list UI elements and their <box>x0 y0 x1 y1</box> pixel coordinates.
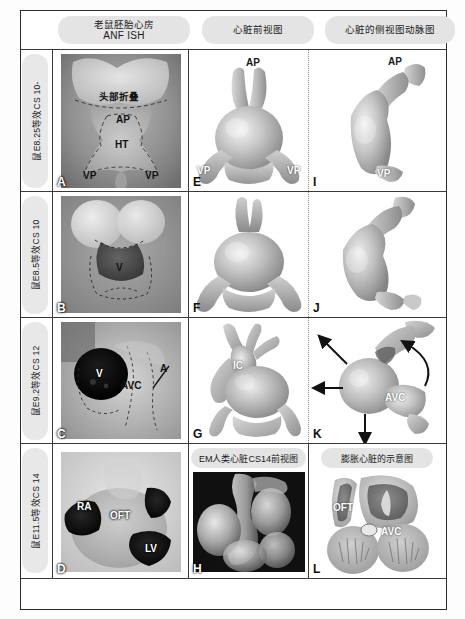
panel-f-model <box>189 192 308 317</box>
panel-h: EM人类心脏CS14前视图 <box>189 444 308 578</box>
panel-a-annotation-vp-right: VP <box>145 170 158 181</box>
column-header-anterior-view-line1: 心脏前视图 <box>233 24 283 36</box>
panel-a-annotation-ht: HT <box>115 139 128 150</box>
column-header-lateral-view-line1: 心脏的侧视图动脉图 <box>345 24 435 36</box>
panel-h-letter: H <box>193 562 202 576</box>
row-label-e85: 鼠E8.5等效CS 10 <box>22 196 48 314</box>
panel-d-annotation-ra: RA <box>77 501 91 512</box>
panel-k: AVC K <box>309 318 446 443</box>
column-header-ish: 老鼠胚胎心房 ANF ISH <box>58 16 190 44</box>
panel-g-letter: G <box>193 427 202 441</box>
panel-j: J <box>309 192 446 317</box>
panel-d-letter: D <box>57 562 66 576</box>
row-label-e825: 鼠E8.25等效CS 10- <box>22 54 48 188</box>
figure-panel: 老鼠胚胎心房 ANF ISH 心脏前视图 心脏的侧视图动脉图 鼠E8.25等效C… <box>0 0 465 619</box>
row-label-e115-text: 鼠E11.5等效CS 14 <box>29 473 41 548</box>
panel-g: IC G <box>189 318 308 443</box>
panel-l: 膨胀心脏的示意图 <box>309 444 446 578</box>
panel-k-annotation-avc: AVC <box>385 392 405 403</box>
panel-a-letter: A <box>57 175 66 189</box>
row-divider-4 <box>21 578 446 579</box>
panel-c-annotation-avc: AVC <box>121 380 141 391</box>
panel-a-annotation-ap: AP <box>116 114 130 125</box>
panel-d-annotation-oft: OFT <box>110 510 130 521</box>
panel-b-image <box>61 196 181 313</box>
panel-j-model <box>309 192 446 317</box>
row-label-e92: 鼠E9.2等效CS 12 <box>22 322 48 440</box>
panel-h-image <box>193 472 305 572</box>
row-label-e825-text: 鼠E8.25等效CS 10- <box>29 81 41 160</box>
panel-k-letter: K <box>313 427 322 441</box>
row-label-e85-text: 鼠E8.5等效CS 10 <box>29 220 41 291</box>
panel-d-annotation-lv: LV <box>145 543 157 554</box>
panel-b-annotation-v: V <box>116 262 123 273</box>
panel-l-diagram <box>309 472 446 576</box>
panel-l-annotation-avc: AVC <box>381 526 401 537</box>
panel-k-model <box>309 318 446 443</box>
panel-l-annotation-oft: OFT <box>333 502 353 513</box>
panel-c-annotation-v: V <box>96 368 103 379</box>
panel-a-annotation-vp-left: VP <box>83 170 96 181</box>
column-header-anterior-view: 心脏前视图 <box>202 16 314 44</box>
column-header-ish-line1: 老鼠胚胎心房 <box>94 19 154 31</box>
panel-e-annotation-ap: AP <box>246 57 260 68</box>
panel-f: F <box>189 192 308 317</box>
panel-b: V B <box>53 192 188 317</box>
row-label-e92-text: 鼠E9.2等效CS 12 <box>29 346 41 417</box>
panel-e: AP VP VP E <box>189 50 308 191</box>
panel-i: AP VP I <box>309 50 446 191</box>
panel-i-annotation-ap: AP <box>388 56 402 67</box>
panel-b-letter: B <box>57 301 66 315</box>
panel-c-annotation-a: A <box>160 363 167 374</box>
panel-g-annotation-ic: IC <box>233 360 243 371</box>
panel-e-letter: E <box>193 175 201 189</box>
panel-l-letter: L <box>313 562 320 576</box>
row-label-e115: 鼠E11.5等效CS 14 <box>22 448 48 573</box>
panel-c-letter: C <box>57 427 66 441</box>
panel-g-model <box>189 318 308 443</box>
panel-a-annotation-headfold: 头部折叠 <box>99 89 139 103</box>
panel-i-letter: I <box>313 175 316 189</box>
panel-d: RA OFT LV D <box>53 444 188 578</box>
panel-l-header: 膨胀心脏的示意图 <box>321 448 433 468</box>
column-header-ish-line2: ANF ISH <box>103 30 145 42</box>
panel-i-annotation-vp: VP <box>377 168 390 179</box>
panel-e-annotation-vp-right: VP <box>287 165 300 176</box>
panel-c: V AVC A C <box>53 318 188 443</box>
panel-a: 头部折叠 AP HT VP VP A <box>53 50 188 191</box>
panel-f-letter: F <box>193 301 200 315</box>
column-header-lateral-view: 心脏的侧视图动脉图 <box>325 16 455 44</box>
panel-j-letter: J <box>313 301 320 315</box>
panel-h-header: EM人类心脏CS14前视图 <box>191 448 306 468</box>
column-header-row: 老鼠胚胎心房 ANF ISH 心脏前视图 心脏的侧视图动脉图 <box>20 14 447 48</box>
